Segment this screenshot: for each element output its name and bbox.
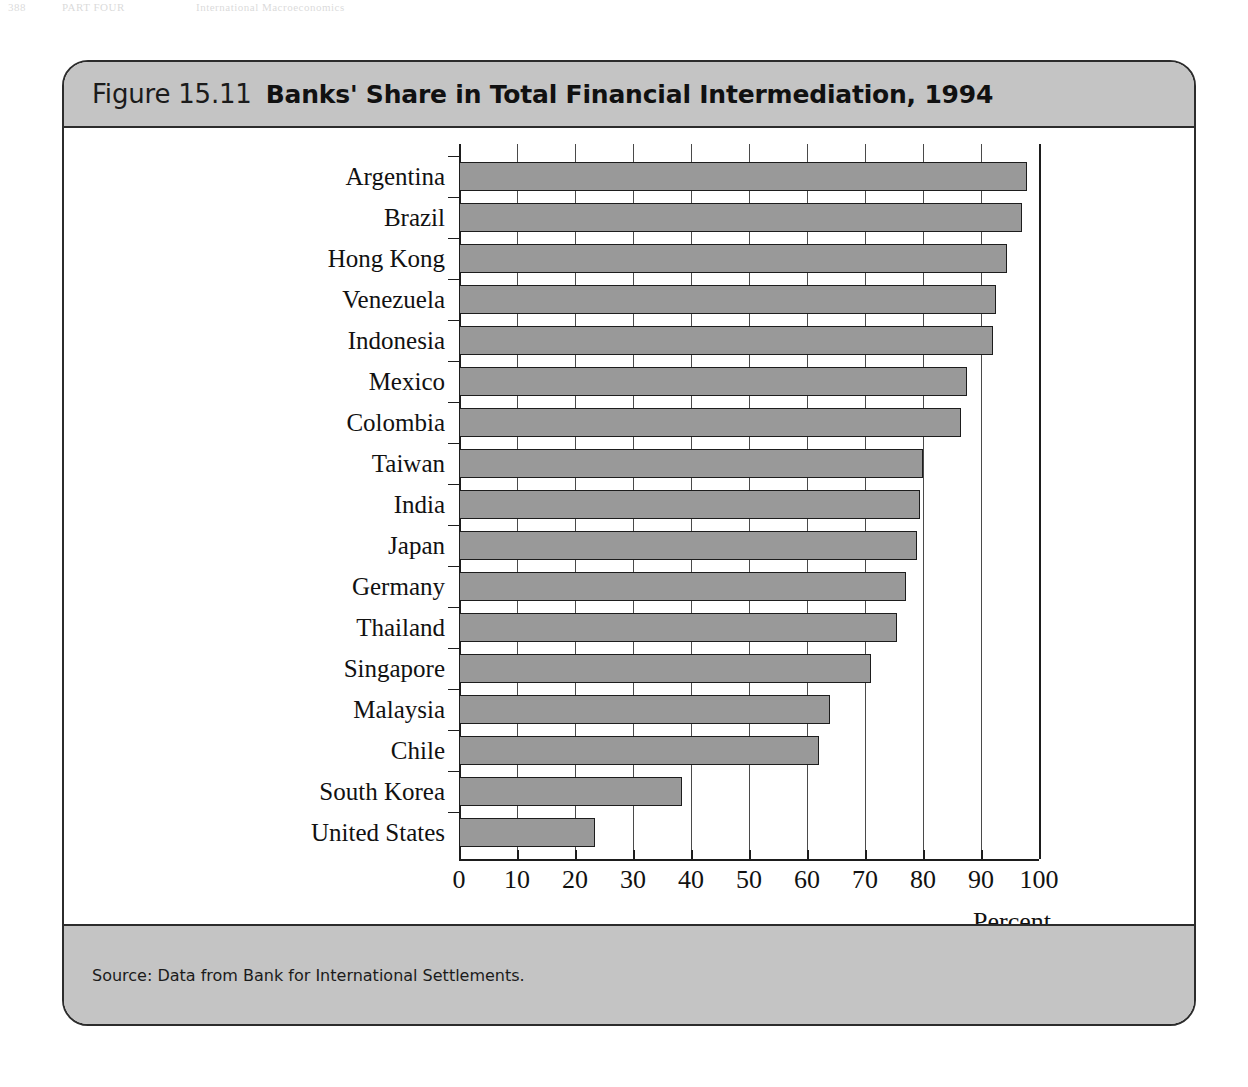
category-label: Germany [153, 566, 453, 607]
chart-bar-row: Argentina [64, 156, 1196, 197]
chart-bar [459, 613, 897, 642]
chart-bar [459, 695, 830, 724]
figure-title: Banks' Share in Total Financial Intermed… [266, 80, 994, 109]
chart-bar-row: Indonesia [64, 320, 1196, 361]
category-tick [448, 566, 459, 567]
chart-bar-row: Chile [64, 730, 1196, 771]
page-number: 388 [8, 1, 26, 13]
chart-bar-row: South Korea [64, 771, 1196, 812]
chart-bar-row: India [64, 484, 1196, 525]
category-label: Argentina [153, 156, 453, 197]
x-axis-tick [923, 850, 925, 859]
category-tick [448, 525, 459, 526]
chart-bar [459, 654, 871, 683]
category-tick [448, 771, 459, 772]
chart-bar-row: Taiwan [64, 443, 1196, 484]
x-axis-tick [807, 850, 809, 859]
x-axis-tick-label: 20 [562, 865, 588, 895]
x-axis-tick [749, 850, 751, 859]
category-tick [448, 402, 459, 403]
page-header-remnant: 388 PART FOUR International Macroeconomi… [0, 0, 1248, 16]
chart-bar-row: United States [64, 812, 1196, 853]
x-axis-tick-label: 80 [910, 865, 936, 895]
category-label: Japan [153, 525, 453, 566]
x-axis-tick-label: 50 [736, 865, 762, 895]
x-axis-tick-label: 40 [678, 865, 704, 895]
chart-bar-row: Japan [64, 525, 1196, 566]
figure-footer-bar: Source: Data from Bank for International… [64, 924, 1194, 1024]
x-axis-tick [691, 850, 693, 859]
chart-bar-row: Hong Kong [64, 238, 1196, 279]
figure-container: Figure 15.11 Banks' Share in Total Finan… [62, 60, 1196, 1026]
x-axis-tick-label: 0 [453, 865, 466, 895]
category-label: South Korea [153, 771, 453, 812]
x-axis-tick [981, 850, 983, 859]
x-axis-tick-label: 90 [968, 865, 994, 895]
category-label: Brazil [153, 197, 453, 238]
chart-bar-row: Malaysia [64, 689, 1196, 730]
category-label: Colombia [153, 402, 453, 443]
figure-title-bar: Figure 15.11 Banks' Share in Total Finan… [64, 62, 1194, 128]
source-note: Source: Data from Bank for International… [92, 966, 525, 985]
category-tick [448, 197, 459, 198]
category-label: Mexico [153, 361, 453, 402]
category-tick [448, 607, 459, 608]
chart-bar [459, 572, 906, 601]
chart-x-axis [459, 859, 1039, 861]
category-tick [448, 730, 459, 731]
chart-bar [459, 326, 993, 355]
x-axis-tick-label: 100 [1020, 865, 1059, 895]
chart-bar [459, 285, 996, 314]
category-tick [448, 156, 459, 157]
x-axis-tick [575, 850, 577, 859]
x-axis-tick [459, 850, 461, 859]
category-label: Hong Kong [153, 238, 453, 279]
chart-bar [459, 490, 920, 519]
category-label: Thailand [153, 607, 453, 648]
category-label: Chile [153, 730, 453, 771]
chart-bar-row: Germany [64, 566, 1196, 607]
figure-number: Figure 15.11 [92, 79, 252, 109]
x-axis-tick [517, 850, 519, 859]
category-tick [448, 238, 459, 239]
chart-bar-row: Singapore [64, 648, 1196, 689]
chart-bar [459, 408, 961, 437]
x-axis-tick-label: 70 [852, 865, 878, 895]
chart-bar-row: Venezuela [64, 279, 1196, 320]
category-label: India [153, 484, 453, 525]
chart-bar [459, 203, 1022, 232]
x-axis-tick [1039, 850, 1041, 859]
chart-bar [459, 531, 917, 560]
x-axis-tick-label: 30 [620, 865, 646, 895]
x-axis-tick [865, 850, 867, 859]
category-tick [448, 443, 459, 444]
category-tick [448, 484, 459, 485]
category-tick [448, 812, 459, 813]
category-tick [448, 320, 459, 321]
chart-bar [459, 818, 595, 847]
category-label: Venezuela [153, 279, 453, 320]
x-axis-tick-label: 10 [504, 865, 530, 895]
chart-bar-row: Brazil [64, 197, 1196, 238]
chapter-label: PART FOUR [62, 1, 125, 13]
category-tick [448, 279, 459, 280]
chart-plot-area: ArgentinaBrazilHong KongVenezuelaIndones… [64, 128, 1196, 928]
chart-bar-row: Colombia [64, 402, 1196, 443]
chart-bar [459, 367, 967, 396]
chart-bar-row: Mexico [64, 361, 1196, 402]
category-tick [448, 648, 459, 649]
category-label: Taiwan [153, 443, 453, 484]
running-title: International Macroeconomics [196, 1, 345, 13]
chart-bar [459, 736, 819, 765]
category-tick [448, 689, 459, 690]
category-label: Indonesia [153, 320, 453, 361]
chart-bar-row: Thailand [64, 607, 1196, 648]
x-axis-tick [633, 850, 635, 859]
x-axis-tick-label: 60 [794, 865, 820, 895]
category-tick [448, 361, 459, 362]
chart-bar [459, 244, 1007, 273]
chart-bar [459, 162, 1027, 191]
category-label: Singapore [153, 648, 453, 689]
category-label: United States [153, 812, 453, 853]
chart-bar [459, 777, 682, 806]
